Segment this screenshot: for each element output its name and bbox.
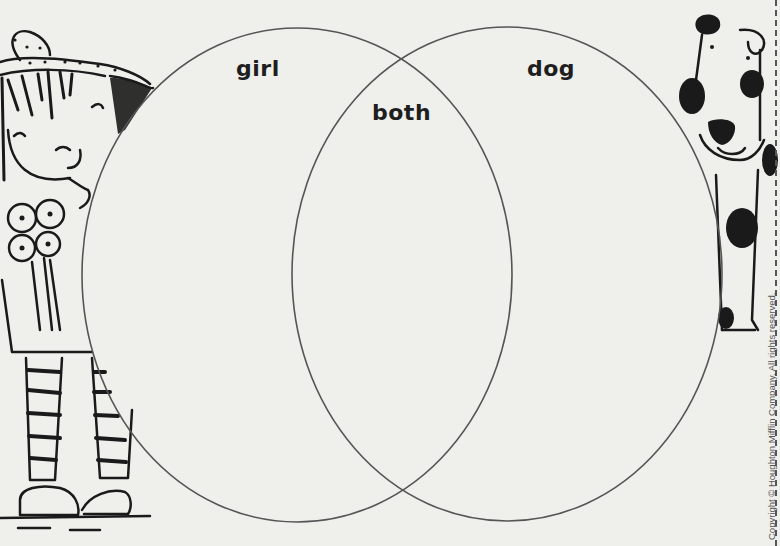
- venn-circles: [0, 0, 780, 546]
- venn-diagram-worksheet: girl dog both Copyright © Houghton Miffl…: [0, 0, 780, 546]
- girl-label: girl: [236, 56, 280, 81]
- girl-circle: [82, 28, 512, 522]
- perforation-line: [775, 0, 777, 546]
- dog-circle: [292, 27, 722, 521]
- both-label: both: [372, 100, 431, 125]
- dog-label: dog: [527, 56, 575, 81]
